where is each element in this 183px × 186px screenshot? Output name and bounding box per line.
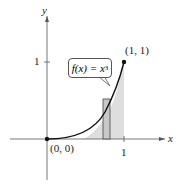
figure: f(x) = x3 y x 1 1 (0, 0) (1, 1)	[0, 0, 183, 186]
function-label: f(x) = x3	[68, 58, 112, 78]
y-axis-arrow	[45, 16, 49, 22]
function-exponent: 3	[105, 64, 109, 72]
end-point-label: (1, 1)	[125, 44, 149, 56]
end-point	[122, 60, 126, 64]
x-tick-label: 1	[121, 146, 127, 158]
y-tick-label: 1	[34, 55, 40, 67]
plot-canvas	[0, 0, 183, 186]
x-axis-label: x	[168, 132, 173, 144]
x-axis-arrow	[159, 137, 165, 141]
function-text: f(x) = x	[72, 62, 105, 74]
y-axis-label: y	[42, 4, 47, 16]
origin-label: (0, 0)	[50, 142, 74, 154]
origin-point	[45, 137, 49, 141]
